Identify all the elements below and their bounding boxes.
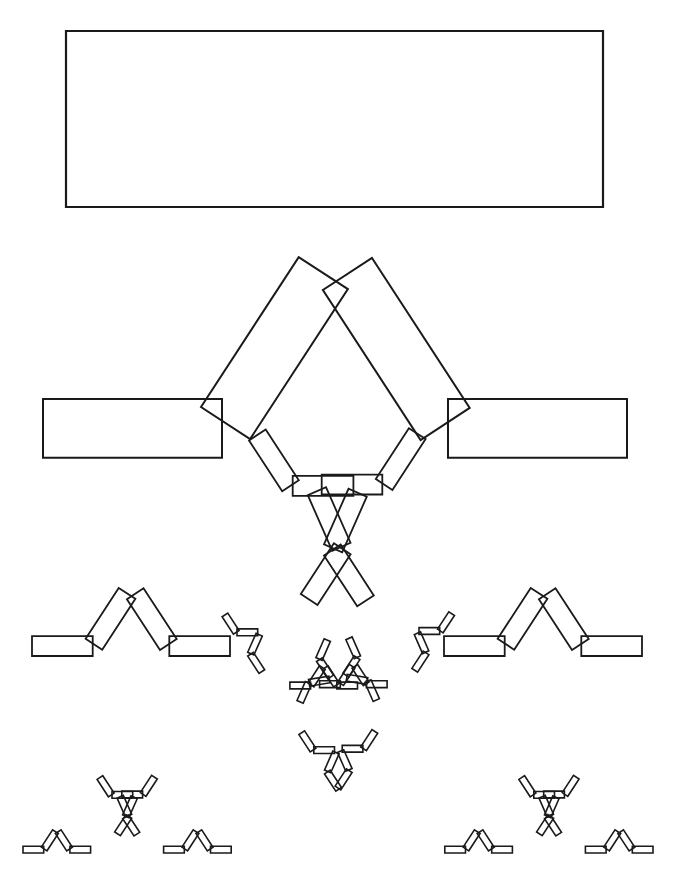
stage-2-rectangle <box>293 476 354 496</box>
stage-1-four-rectangles <box>43 257 627 458</box>
stage-3-rectangle <box>335 769 352 790</box>
stage-1-rectangle <box>448 399 627 458</box>
stage-3-rectangle <box>248 652 265 673</box>
stage-3-rectangle <box>346 637 361 659</box>
stage-3-rectangle <box>545 815 562 836</box>
stage-3-rectangle <box>123 815 140 836</box>
stage-3-rectangle <box>412 651 429 672</box>
stage-2-rectangle <box>581 636 642 656</box>
stage-2-rectangle <box>322 475 383 495</box>
stage-2-sixteen-rectangles <box>32 428 642 656</box>
stage-2-rectangle <box>301 543 351 605</box>
stage-3-rectangle <box>338 750 353 772</box>
stage-2-rectangle <box>249 430 299 492</box>
stage-1-rectangle <box>201 257 348 439</box>
stage-3-sixty-four-rectangles <box>23 612 653 853</box>
stage-2-rectangle <box>169 636 230 656</box>
stage-0-rectangle <box>66 31 603 207</box>
stage-3-rectangle <box>248 633 263 655</box>
stage-3-rectangle <box>237 629 258 636</box>
stage-1-rectangle <box>43 399 222 458</box>
stage-3-rectangle <box>325 751 340 773</box>
stage-2-rectangle <box>32 636 93 656</box>
stage-3-rectangle <box>342 745 363 752</box>
stage-3-rectangle <box>316 639 331 661</box>
figure-caption-cropped <box>22 880 662 890</box>
stage-2-rectangle <box>444 636 505 656</box>
stage-0-rectangle <box>66 31 603 207</box>
stage-3-rectangle <box>419 628 440 635</box>
koch-curve-figure <box>0 0 684 890</box>
